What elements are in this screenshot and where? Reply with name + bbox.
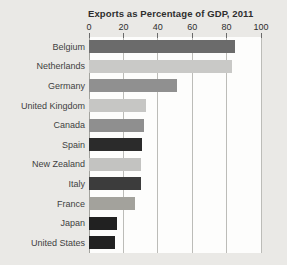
bar-track <box>89 60 287 73</box>
bar-track <box>89 79 287 92</box>
chart-title: Exports as Percentage of GDP, 2011 <box>88 8 253 19</box>
x-axis-tick-label: 100 <box>253 22 268 32</box>
category-label: United Kingdom <box>0 101 89 111</box>
x-axis-tick-label: 80 <box>222 22 232 32</box>
bar-belgium <box>89 40 235 53</box>
category-label: Netherlands <box>0 61 89 71</box>
bar-netherlands <box>89 60 232 73</box>
bar-united-states <box>89 236 115 249</box>
category-label: Italy <box>0 179 89 189</box>
exports-gdp-bar-chart: Exports as Percentage of GDP, 2011 02040… <box>0 0 287 265</box>
category-label: Japan <box>0 218 89 228</box>
bar-row: Italy <box>0 174 287 194</box>
bar-new-zealand <box>89 158 141 171</box>
bar-track <box>89 236 287 249</box>
bar-track <box>89 217 287 230</box>
bar-spain <box>89 138 142 151</box>
category-label: France <box>0 199 89 209</box>
bar-italy <box>89 177 141 190</box>
category-label: Spain <box>0 140 89 150</box>
bar-track <box>89 119 287 132</box>
x-axis-tick-label: 0 <box>86 22 91 32</box>
bar-row: Germany <box>0 76 287 96</box>
category-label: United States <box>0 238 89 248</box>
bar-row: New Zealand <box>0 155 287 175</box>
bar-row: Canada <box>0 115 287 135</box>
x-axis-tick-label: 20 <box>118 22 128 32</box>
bar-row: France <box>0 194 287 214</box>
bar-row: Spain <box>0 135 287 155</box>
bar-track <box>89 99 287 112</box>
bar-track <box>89 138 287 151</box>
category-label: Belgium <box>0 42 89 52</box>
bar-france <box>89 197 135 210</box>
x-axis: 020406080100 <box>89 22 261 33</box>
bar-row: Japan <box>0 213 287 233</box>
bar-rows: BelgiumNetherlandsGermanyUnited KingdomC… <box>0 37 287 253</box>
bar-united-kingdom <box>89 99 146 112</box>
bar-germany <box>89 79 177 92</box>
bar-track <box>89 40 287 53</box>
bar-japan <box>89 217 117 230</box>
category-label: Canada <box>0 120 89 130</box>
bar-row: Belgium <box>0 37 287 57</box>
bar-track <box>89 197 287 210</box>
bar-track <box>89 158 287 171</box>
x-axis-tick-label: 60 <box>187 22 197 32</box>
bar-row: United Kingdom <box>0 96 287 116</box>
category-label: New Zealand <box>0 159 89 169</box>
x-axis-tick-label: 40 <box>153 22 163 32</box>
bar-row: United States <box>0 233 287 253</box>
bar-track <box>89 177 287 190</box>
category-label: Germany <box>0 81 89 91</box>
bar-canada <box>89 119 144 132</box>
bar-row: Netherlands <box>0 57 287 77</box>
